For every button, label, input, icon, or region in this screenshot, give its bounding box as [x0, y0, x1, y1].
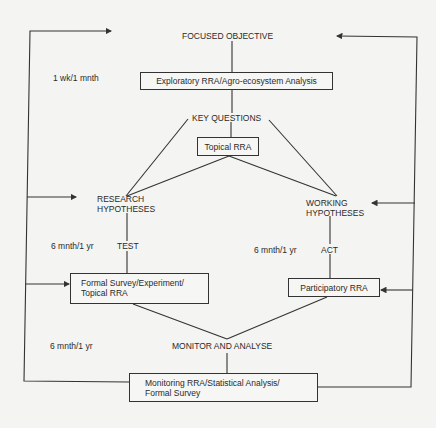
working-line2: HYPOTHESES	[306, 208, 364, 218]
formal-line1: Formal Survey/Experiment/	[81, 278, 208, 288]
participatory-rra-box: Participatory RRA	[288, 278, 380, 297]
duration-monitor: 6 mnth/1 yr	[50, 341, 93, 351]
rra-flow-diagram: FOCUSED OBJECTIVE 1 wk/1 mnth Explorator…	[0, 0, 436, 428]
connector-lines	[0, 0, 436, 428]
formal-line2: Topical RRA	[81, 288, 208, 298]
test-label: TEST	[117, 241, 139, 251]
topical-rra-box: Topical RRA	[197, 137, 259, 156]
monitor-analyse-label: MONITOR AND ANALYSE	[172, 341, 272, 351]
act-label: ACT	[321, 245, 338, 255]
focused-objective-label: FOCUSED OBJECTIVE	[182, 31, 273, 41]
research-line2: HYPOTHESES	[97, 204, 155, 214]
monitoring-line2: Formal Survey	[145, 388, 317, 398]
monitoring-line1: Monitoring RRA/Statistical Analysis/	[145, 378, 317, 388]
duration-act: 6 mnth/1 yr	[254, 245, 297, 255]
formal-survey-box: Formal Survey/Experiment/ Topical RRA	[70, 273, 209, 304]
working-line1: WORKING	[306, 198, 348, 208]
duration-exploratory: 1 wk/1 mnth	[53, 73, 99, 83]
exploratory-rra-box: Exploratory RRA/Agro-ecosystem Analysis	[140, 72, 333, 90]
research-line1: RESEARCH	[97, 194, 144, 204]
duration-test: 6 mnth/1 yr	[51, 241, 94, 251]
monitoring-rra-box: Monitoring RRA/Statistical Analysis/ For…	[129, 373, 318, 402]
key-questions-label: KEY QUESTIONS	[192, 113, 261, 123]
